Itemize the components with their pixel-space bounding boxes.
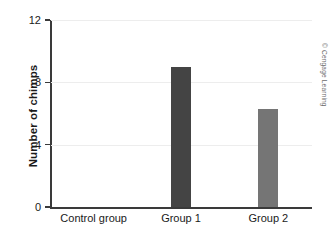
x-axis-tick-label: Group 1 bbox=[161, 212, 201, 224]
y-axis-line bbox=[50, 20, 52, 207]
y-axis-tick-label: 12 bbox=[11, 14, 41, 26]
y-axis-tick-label: 8 bbox=[11, 76, 41, 88]
x-axis-tick-label: Group 2 bbox=[248, 212, 288, 224]
gridline bbox=[51, 20, 312, 21]
plot-area: 04812 Control groupGroup 1Group 2 bbox=[50, 20, 312, 207]
bar-chart-figure: Number of chimps 04812 Control groupGrou… bbox=[0, 0, 334, 232]
y-axis-tick bbox=[45, 144, 50, 145]
x-axis-tick-label: Control group bbox=[60, 212, 127, 224]
y-axis-title: Number of chimps bbox=[22, 0, 44, 232]
y-axis-tick bbox=[45, 19, 50, 20]
bar bbox=[171, 67, 191, 207]
y-axis-tick bbox=[45, 82, 50, 83]
y-axis-tick-label: 0 bbox=[11, 201, 41, 213]
bar bbox=[258, 109, 278, 207]
copyright-credit: © Cengage Learning bbox=[317, 43, 333, 138]
y-axis-tick-label: 4 bbox=[11, 139, 41, 151]
y-axis-tick bbox=[45, 206, 50, 207]
x-axis-line bbox=[50, 207, 312, 209]
